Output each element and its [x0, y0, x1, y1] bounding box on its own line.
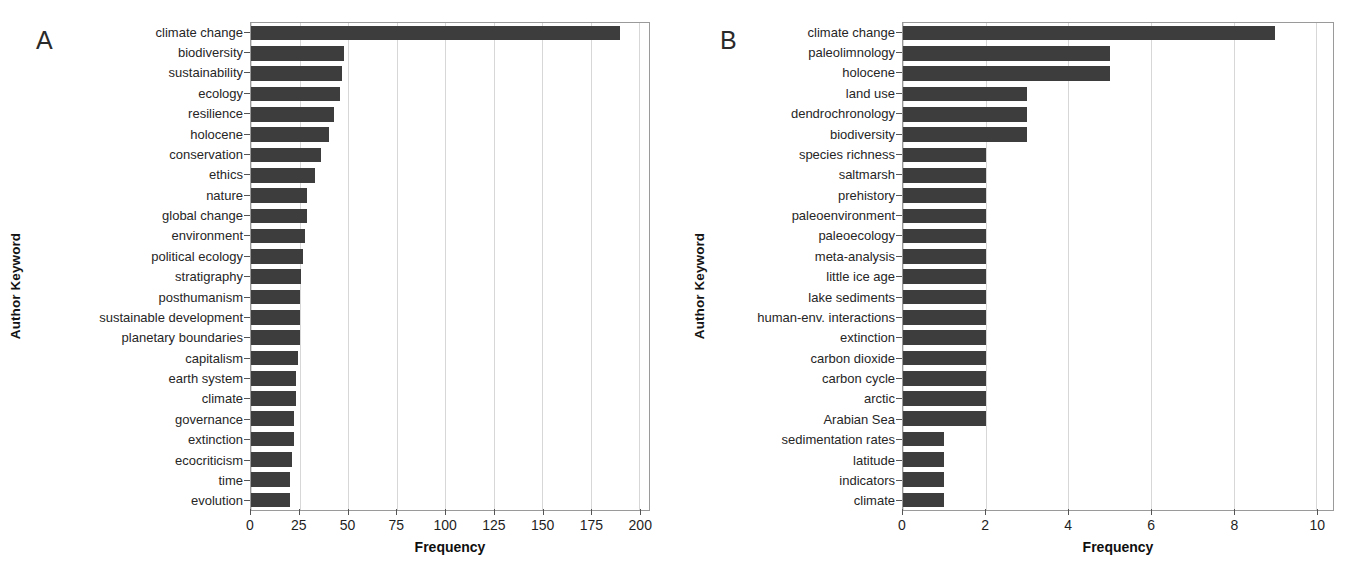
bar [251, 188, 307, 203]
bar [903, 330, 986, 345]
y-tick-label: stratigraphy [60, 267, 250, 287]
y-tick-label: capitalism [60, 348, 250, 368]
y-tick-label: biodiversity [60, 42, 250, 62]
y-tick-label: conservation [60, 144, 250, 164]
bar-row [251, 104, 649, 124]
y-tick-label: sustainability [60, 63, 250, 83]
y-tick-label: carbon cycle [704, 368, 902, 388]
bar-row [251, 388, 649, 408]
y-tick-label: extinction [60, 430, 250, 450]
y-tick-label: latitude [704, 450, 902, 470]
bar-row [251, 449, 649, 469]
bar [903, 493, 944, 508]
bar [903, 351, 986, 366]
x-tick-label: 50 [340, 517, 356, 533]
x-tick-mark [396, 509, 397, 515]
y-tick-label: dendrochronology [704, 104, 902, 124]
bar-row [903, 368, 1333, 388]
x-tick-mark [348, 509, 349, 515]
y-tick-label: arctic [704, 389, 902, 409]
bar-row [251, 409, 649, 429]
bar [903, 188, 986, 203]
x-tick-mark [902, 509, 903, 515]
bar [251, 391, 296, 406]
y-tick-label: sedimentation rates [704, 430, 902, 450]
bar [903, 310, 986, 325]
bar [251, 66, 342, 81]
y-tick-label: climate change [704, 22, 902, 42]
panel-a-x-axis-title: Frequency [250, 539, 650, 555]
bar-row [903, 84, 1333, 104]
x-tick-label: 100 [433, 517, 456, 533]
y-tick-label: earth system [60, 368, 250, 388]
bar [903, 87, 1027, 102]
bar [903, 46, 1110, 61]
bar-row [903, 165, 1333, 185]
panel-a-plot-area [250, 22, 650, 511]
y-tick-label: resilience [60, 104, 250, 124]
bar-row [251, 84, 649, 104]
y-tick-label: nature [60, 185, 250, 205]
y-tick-label: evolution [60, 491, 250, 511]
y-tick-label: holocene [704, 63, 902, 83]
panel-b-y-tick-labels: climate changepaleolimnologyholoceneland… [704, 22, 902, 511]
y-tick-label: environment [60, 226, 250, 246]
bar-row [251, 23, 649, 43]
panel-a-y-tick-labels: climate changebiodiversitysustainability… [60, 22, 250, 511]
bar [903, 209, 986, 224]
bar-row [903, 470, 1333, 490]
bar-row [251, 246, 649, 266]
bar-row [251, 267, 649, 287]
bar-row [903, 287, 1333, 307]
bar-row [903, 23, 1333, 43]
x-tick-label: 4 [1064, 517, 1072, 533]
bar [903, 472, 944, 487]
x-tick-mark [1317, 509, 1318, 515]
panel-a: A Author Keyword climate changebiodivers… [0, 0, 684, 571]
bar-row [251, 185, 649, 205]
bar [251, 269, 301, 284]
bar [251, 351, 298, 366]
bar [251, 209, 307, 224]
x-tick-label: 125 [482, 517, 505, 533]
panel-b-plot-area [902, 22, 1334, 511]
panel-b: B Author Keyword climate changepaleolimn… [684, 0, 1368, 571]
bar [251, 46, 344, 61]
x-tick-mark [299, 509, 300, 515]
bar-row [903, 124, 1333, 144]
y-tick-label: ecocriticism [60, 450, 250, 470]
x-tick-label: 200 [629, 517, 652, 533]
bar-row [251, 470, 649, 490]
bar-row [251, 490, 649, 510]
x-tick-mark [543, 509, 544, 515]
y-tick-label: little ice age [704, 267, 902, 287]
bar [251, 229, 305, 244]
bar [903, 127, 1027, 142]
y-tick-label: biodiversity [704, 124, 902, 144]
bar [903, 452, 944, 467]
x-tick-label: 25 [291, 517, 307, 533]
y-tick-label: posthumanism [60, 287, 250, 307]
bar [903, 66, 1110, 81]
y-tick-label: indicators [704, 470, 902, 490]
bar-row [903, 348, 1333, 368]
bar [903, 371, 986, 386]
bar-row [251, 165, 649, 185]
y-tick-label: paleoenvironment [704, 205, 902, 225]
bar [903, 229, 986, 244]
x-tick-mark [591, 509, 592, 515]
bar-row [903, 449, 1333, 469]
bar-row [251, 327, 649, 347]
y-tick-label: global change [60, 205, 250, 225]
y-tick-label: carbon dioxide [704, 348, 902, 368]
y-tick-label: governance [60, 409, 250, 429]
bar-row [251, 226, 649, 246]
y-tick-label: prehistory [704, 185, 902, 205]
x-tick-mark [1151, 509, 1152, 515]
bar [903, 26, 1275, 41]
y-tick-label: political ecology [60, 246, 250, 266]
bar-row [903, 388, 1333, 408]
y-tick-label: climate change [60, 22, 250, 42]
y-tick-label: climate [60, 389, 250, 409]
bar [903, 411, 986, 426]
